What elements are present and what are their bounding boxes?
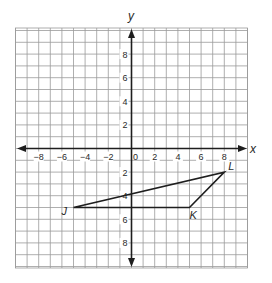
triangle-outline [74,172,225,207]
x-tick-label: 4 [175,152,180,162]
y-tick-label: 6 [122,73,127,83]
x-tick-label: −2 [103,152,113,162]
x-axis-right-arrow-icon [238,145,247,152]
coordinate-plane: −8−6−4−20246886422468 JKL x y [0,0,272,283]
y-tick-label: 2 [122,120,127,130]
vertex-label-j: J [61,205,68,217]
x-axis-left-arrow-icon [17,145,26,152]
y-axis-label: y [127,9,135,23]
y-tick-label: 4 [122,97,127,107]
x-tick-label: 0 [133,152,138,162]
triangle-jkl: JKL [61,160,235,220]
y-tick-label: 8 [122,238,127,248]
x-tick-label: −6 [57,152,67,162]
y-tick-label: 8 [122,50,127,60]
x-tick-label: −8 [34,152,44,162]
x-tick-label: 2 [152,152,157,162]
y-axis-down-arrow-icon [128,258,135,267]
x-axis-label: x [249,142,257,156]
y-tick-label: 6 [122,215,127,225]
y-tick-label: 2 [122,168,127,178]
vertex-label-l: L [228,160,234,172]
x-tick-label: −4 [80,152,90,162]
vertex-label-k: K [190,209,198,221]
x-tick-label: 6 [199,152,204,162]
x-tick-label: 8 [222,152,227,162]
